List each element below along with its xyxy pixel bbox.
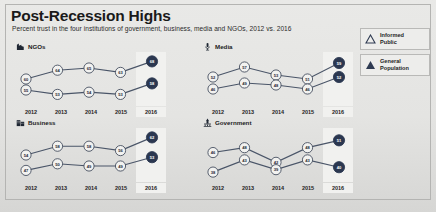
slide-canvas: Post-Recession Highs Percent trust in th… — [0, 0, 436, 212]
data-point: 51 — [302, 74, 312, 84]
panel-business: Business54585856624750494953201220132014… — [16, 118, 166, 193]
data-point-value: 58 — [87, 144, 92, 149]
triangle-filled-icon — [365, 60, 376, 70]
x-axis: 20122013201420152016 — [16, 107, 166, 117]
data-point: 46 — [302, 84, 312, 94]
data-point: 52 — [333, 71, 344, 82]
data-point-value: 49 — [242, 81, 247, 86]
data-point: 55 — [21, 85, 31, 95]
x-axis: 20122013201420152016 — [203, 107, 353, 117]
data-point: 48 — [302, 143, 312, 153]
data-point: 63 — [115, 67, 125, 77]
data-point-value: 53 — [274, 73, 279, 78]
data-point: 54 — [84, 87, 94, 97]
legend-item-label: Informed Public — [380, 32, 404, 45]
government-icon — [203, 118, 212, 127]
legend-item-general-population: General Population — [360, 54, 430, 76]
panel-header: Media — [203, 42, 353, 51]
x-axis-tick-2012: 2012 — [16, 107, 46, 117]
data-point: 56 — [115, 146, 125, 156]
data-point: 57 — [239, 62, 249, 72]
panel-header: Government — [203, 118, 353, 127]
ngo-icon — [16, 42, 25, 51]
page-title: Post-Recession Highs — [11, 7, 171, 25]
x-axis-tick-2016: 2016 — [323, 183, 353, 193]
data-point: 53 — [271, 70, 281, 80]
triangle-outline-icon — [365, 34, 376, 44]
data-point: 58 — [146, 78, 157, 89]
panel-title: Media — [215, 43, 233, 50]
data-point: 38 — [208, 167, 218, 177]
data-point: 39 — [271, 165, 281, 175]
data-point-value: 64 — [55, 68, 60, 73]
x-axis-tick-2013: 2013 — [46, 183, 76, 193]
chart-plot-area: 46484248513843394340 — [203, 128, 353, 182]
data-point: 59 — [333, 57, 344, 68]
x-axis-tick-2013: 2013 — [46, 107, 76, 117]
data-point-value: 46 — [211, 150, 216, 155]
data-point-value: 43 — [305, 158, 310, 163]
data-point: 58 — [84, 141, 94, 151]
data-point-value: 58 — [55, 144, 60, 149]
legend-label-line1: Informed — [380, 32, 404, 39]
x-axis-tick-2014: 2014 — [76, 107, 106, 117]
data-point: 53 — [52, 89, 62, 99]
data-point-value: 48 — [274, 83, 279, 88]
data-point: 53 — [115, 89, 125, 99]
chart-plot-area: 54585856624750494953 — [16, 128, 166, 182]
data-point-value: 54 — [24, 153, 29, 158]
x-axis-tick-2015: 2015 — [293, 183, 323, 193]
data-point-value: 53 — [118, 92, 123, 97]
legend: Informed Public General Population — [360, 28, 430, 80]
data-point: 62 — [146, 132, 157, 143]
data-point-value: 63 — [118, 70, 123, 75]
data-point: 52 — [208, 72, 218, 82]
data-point-value: 43 — [242, 158, 247, 163]
x-axis-tick-2014: 2014 — [76, 183, 106, 193]
x-axis: 20122013201420152016 — [16, 183, 166, 193]
data-point-value: 68 — [150, 59, 155, 64]
legend-item-label: General Population — [380, 58, 409, 71]
x-axis-tick-2015: 2015 — [106, 183, 136, 193]
panel-header: NGOs — [16, 42, 166, 51]
x-axis-tick-2013: 2013 — [233, 107, 263, 117]
x-axis-tick-2014: 2014 — [263, 107, 293, 117]
panel-ngos: NGOs606465636855535453582012201320142015… — [16, 42, 166, 117]
business-icon — [16, 118, 25, 127]
data-point-value: 65 — [87, 66, 92, 71]
data-point: 58 — [52, 141, 62, 151]
data-point: 48 — [271, 80, 281, 90]
data-point: 51 — [333, 135, 344, 146]
legend-item-informed-public: Informed Public — [360, 28, 430, 50]
data-point-value: 57 — [242, 65, 247, 70]
data-point-value: 51 — [305, 77, 310, 82]
data-point: 40 — [333, 162, 344, 173]
x-axis-tick-2015: 2015 — [106, 107, 136, 117]
data-point: 65 — [84, 63, 94, 73]
chart-plot-area: 52575351594649484652 — [203, 52, 353, 106]
panel-title: Government — [215, 119, 251, 126]
data-point: 64 — [52, 65, 62, 75]
legend-label-line2: Population — [380, 65, 409, 72]
x-axis-tick-2012: 2012 — [16, 183, 46, 193]
data-point-value: 49 — [118, 164, 123, 169]
page-subtitle: Percent trust in the four institutions o… — [12, 25, 292, 32]
data-point-value: 54 — [87, 90, 92, 95]
media-icon — [203, 42, 212, 51]
data-point-value: 49 — [87, 164, 92, 169]
data-point: 46 — [208, 84, 218, 94]
data-point-value: 60 — [24, 77, 29, 82]
data-point-value: 38 — [211, 170, 216, 175]
data-point-value: 53 — [150, 155, 155, 160]
data-point: 68 — [146, 56, 157, 67]
x-axis-tick-2012: 2012 — [203, 107, 233, 117]
data-point-value: 40 — [337, 165, 342, 170]
data-point-value: 51 — [337, 138, 342, 143]
x-axis: 20122013201420152016 — [203, 183, 353, 193]
data-point-value: 48 — [242, 145, 247, 150]
data-point: 47 — [21, 165, 31, 175]
data-point-value: 59 — [337, 61, 342, 66]
data-point: 60 — [21, 74, 31, 84]
legend-label-line1: General — [380, 58, 409, 65]
chart-plot-area: 60646563685553545358 — [16, 52, 166, 106]
